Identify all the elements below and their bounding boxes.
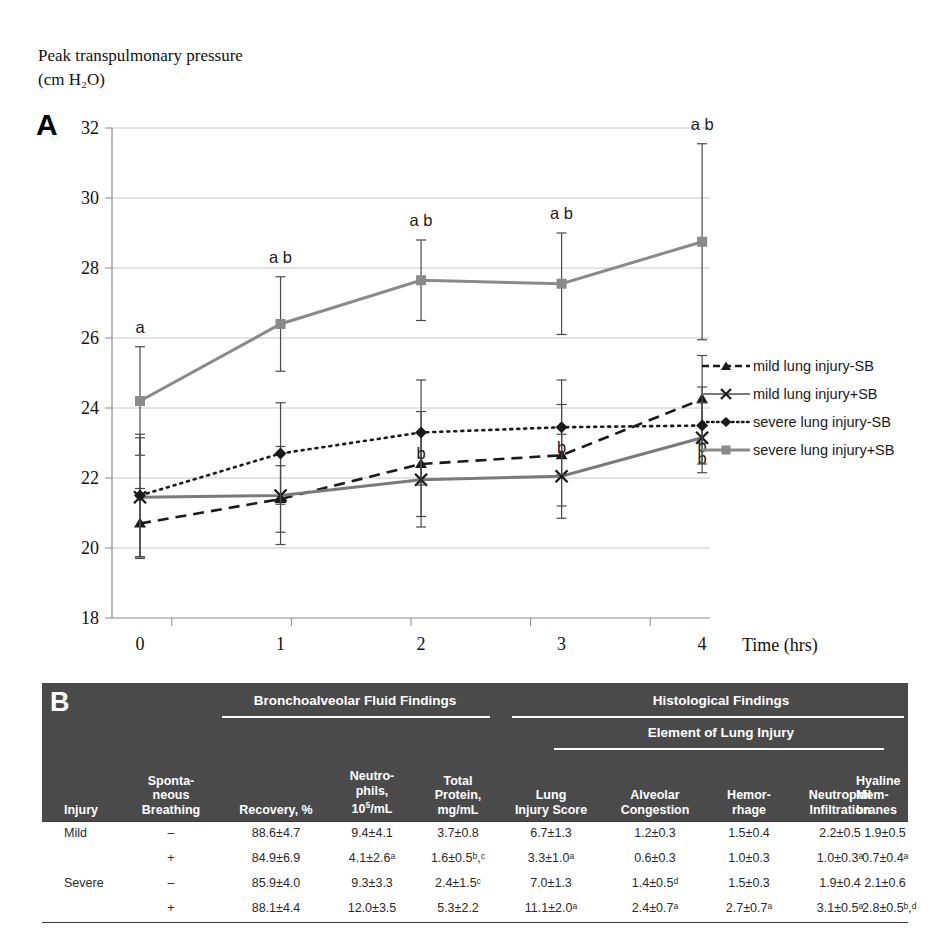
group-rule-bronchoalveolar <box>222 716 490 718</box>
group-header-histological: Histological Findings <box>534 693 908 708</box>
data-point-marker <box>135 396 145 406</box>
col-head-hemorrhage: Hemor-rhage <box>710 788 788 817</box>
cell-hyaline-membranes: 2.1±0.6 <box>862 876 908 890</box>
col-head-recovery: Recovery, % <box>222 803 330 818</box>
data-point-marker <box>415 427 427 439</box>
cell-lung-injury-score: 7.0±1.3 <box>502 876 600 890</box>
panel-a-chart: Peak transpulmonary pressure (cm H₂O) A … <box>0 0 950 672</box>
y-tick-label: 32 <box>81 118 99 138</box>
cell-hyaline-membranes: 0.7±0.4ᵃ <box>862 851 908 865</box>
cell-hemorrhage: 1.5±0.4 <box>710 826 788 840</box>
data-point-marker <box>276 319 286 329</box>
cell-neutrophils: 9.4±4.1 <box>330 826 414 840</box>
cell-recovery: 84.9±6.9 <box>222 851 330 865</box>
cell-hemorrhage: 1.5±0.3 <box>710 876 788 890</box>
line-chart-svg: 182022242628303201234Time (hrs)bbbbaa ba… <box>0 0 950 672</box>
y-tick-label: 18 <box>81 608 99 628</box>
x-tick-label: 4 <box>698 634 707 654</box>
cell-recovery: 88.1±4.4 <box>222 901 330 915</box>
significance-annotation: a b <box>550 204 573 222</box>
group-rule-histological <box>512 716 904 718</box>
cell-total-protein: 3.7±0.8 <box>414 826 502 840</box>
legend-key-solid-x <box>702 387 750 401</box>
significance-annotation: a b <box>410 211 433 229</box>
table-rule-bottom <box>42 922 908 923</box>
cell-sb: + <box>120 851 222 865</box>
cell-lung-injury-score: 3.3±1.0ᵃ <box>502 851 600 865</box>
panel-b-table: B Bronchoalveolar Fluid Findings Histolo… <box>42 683 908 933</box>
significance-annotation: b <box>557 438 566 456</box>
cell-neutrophils: 9.3±3.3 <box>330 876 414 890</box>
cell-sb: + <box>120 901 222 915</box>
x-tick-label: 3 <box>557 634 566 654</box>
table-row: Mild–88.6±4.79.4±4.13.7±0.86.7±1.31.2±0.… <box>42 822 908 847</box>
cell-total-protein: 5.3±2.2 <box>414 901 502 915</box>
y-tick-label: 30 <box>81 188 99 208</box>
chart-legend: mild lung injury-SB mild lung injury+SB … <box>702 352 894 464</box>
col-head-alveolar-congestion: AlveolarCongestion <box>600 788 710 817</box>
cell-neutrophils: 4.1±2.6ᵃ <box>330 851 414 865</box>
table-row: +84.9±6.94.1±2.6ᵃ1.6±0.5ᵇ,ᶜ3.3±1.0ᵃ0.6±0… <box>42 847 908 872</box>
group-header-element-of-lung-injury: Element of Lung Injury <box>534 725 908 740</box>
significance-annotation: b <box>416 444 425 462</box>
y-tick-label: 24 <box>81 398 99 418</box>
x-tick-label: 1 <box>276 634 285 654</box>
data-point-marker <box>275 448 287 460</box>
x-axis-title: Time (hrs) <box>742 635 818 656</box>
legend-item-severe-sb-minus[interactable]: severe lung injury-SB <box>702 408 894 436</box>
col-head-hyaline-membranes: HyalineMem-branes <box>856 774 872 818</box>
y-tick-label: 20 <box>81 538 99 558</box>
legend-label: mild lung injury+SB <box>753 386 878 402</box>
significance-annotation: a b <box>269 248 292 266</box>
group-rule-element <box>554 748 884 750</box>
data-point-marker <box>416 275 426 285</box>
y-tick-label: 28 <box>81 258 99 278</box>
legend-key-solid-square <box>702 443 750 457</box>
cell-neutrophils: 12.0±3.5 <box>330 901 414 915</box>
legend-item-mild-sb-minus[interactable]: mild lung injury-SB <box>702 352 894 380</box>
data-point-marker <box>134 490 146 502</box>
cell-lung-injury-score: 6.7±1.3 <box>502 826 600 840</box>
table-body: Mild–88.6±4.79.4±4.13.7±0.86.7±1.31.2±0.… <box>42 821 908 923</box>
cell-alveolar-congestion: 2.4±0.7ᵃ <box>600 901 710 915</box>
legend-label: severe lung injury-SB <box>753 414 891 430</box>
data-point-marker <box>557 279 567 289</box>
legend-item-severe-sb-plus[interactable]: severe lung injury+SB <box>702 436 894 464</box>
data-point-marker <box>697 237 707 247</box>
x-tick-label: 2 <box>417 634 426 654</box>
significance-annotation: a <box>135 318 145 336</box>
cell-alveolar-congestion: 1.2±0.3 <box>600 826 710 840</box>
y-tick-label: 22 <box>81 468 99 488</box>
cell-lung-injury-score: 11.1±2.0ᵃ <box>502 901 600 915</box>
legend-item-mild-sb-plus[interactable]: mild lung injury+SB <box>702 380 894 408</box>
table-row: Severe–85.9±4.09.3±3.32.4±1.5ᶜ7.0±1.31.4… <box>42 872 908 897</box>
cell-hemorrhage: 2.7±0.7ᵃ <box>710 901 788 915</box>
x-tick-label: 0 <box>136 634 145 654</box>
legend-key-dashed-triangle <box>702 359 750 373</box>
col-head-injury: Injury <box>42 803 120 818</box>
legend-label: severe lung injury+SB <box>753 442 894 458</box>
cell-total-protein: 2.4±1.5ᶜ <box>414 876 502 890</box>
cell-hemorrhage: 1.0±0.3 <box>710 851 788 865</box>
cell-hyaline-membranes: 2.8±0.5ᵇ,ᵈ <box>862 901 908 915</box>
col-head-neutrophils: Neutro-phils,105/mL <box>330 769 414 817</box>
cell-hyaline-membranes: 1.9±0.5 <box>862 826 908 840</box>
table-row: +88.1±4.412.0±3.55.3±2.211.1±2.0ᵃ2.4±0.7… <box>42 897 908 922</box>
legend-label: mild lung injury-SB <box>753 358 874 374</box>
cell-alveolar-congestion: 1.4±0.5ᵈ <box>600 876 710 890</box>
cell-recovery: 88.6±4.7 <box>222 826 330 840</box>
significance-annotation: a b <box>691 115 714 133</box>
cell-sb: – <box>120 876 222 890</box>
panel-b-letter: B <box>50 687 70 718</box>
cell-sb: – <box>120 826 222 840</box>
data-point-marker <box>556 421 568 433</box>
legend-key-dotted-diamond <box>702 415 750 429</box>
table-header: B Bronchoalveolar Fluid Findings Histolo… <box>42 683 908 821</box>
cell-recovery: 85.9±4.0 <box>222 876 330 890</box>
cell-total-protein: 1.6±0.5ᵇ,ᶜ <box>414 851 502 865</box>
group-header-bronchoalveolar: Bronchoalveolar Fluid Findings <box>190 693 520 708</box>
col-head-lung-injury-score: LungInjury Score <box>502 788 600 817</box>
col-head-spontaneous-breathing: Sponta-neousBreathing <box>120 774 222 818</box>
y-tick-label: 26 <box>81 328 99 348</box>
cell-alveolar-congestion: 0.6±0.3 <box>600 851 710 865</box>
